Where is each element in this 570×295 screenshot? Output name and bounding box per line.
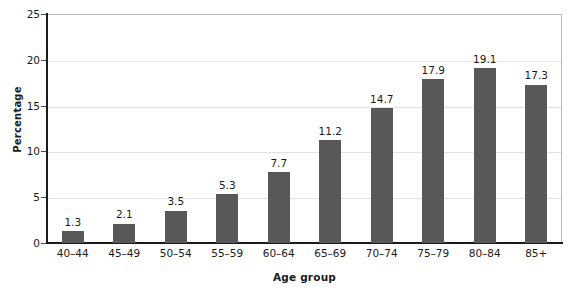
y-tick-label: 10 (6, 146, 40, 157)
x-tick-label: 40–44 (47, 247, 99, 259)
x-tick-label: 80–84 (459, 247, 511, 259)
bar[interactable] (319, 140, 341, 243)
bar[interactable] (474, 68, 496, 243)
bar[interactable] (525, 85, 547, 243)
bar-group[interactable]: 11.2 (305, 14, 357, 243)
x-tick-label: 85+ (511, 247, 563, 259)
bar-value-label: 2.1 (116, 209, 133, 220)
bar-group[interactable]: 5.3 (202, 14, 254, 243)
bar-value-label: 17.3 (525, 70, 548, 81)
bar[interactable] (422, 79, 444, 243)
bar-group[interactable]: 2.1 (99, 14, 151, 243)
x-axis-ticks: 40–4445–4950–5455–5960–6465–6970–7475–79… (47, 247, 562, 265)
x-tick-label: 75–79 (408, 247, 460, 259)
x-tick-label: 70–74 (356, 247, 408, 259)
bar[interactable] (113, 224, 135, 243)
bar-group[interactable]: 3.5 (150, 14, 202, 243)
bar-value-label: 3.5 (167, 196, 184, 207)
bar-value-label: 7.7 (270, 158, 287, 169)
bar-group[interactable]: 7.7 (253, 14, 305, 243)
x-tick-label: 55–59 (202, 247, 254, 259)
bar[interactable] (371, 108, 393, 243)
bar-group[interactable]: 17.9 (408, 14, 460, 243)
y-tick-label: 25 (6, 9, 40, 20)
bar[interactable] (268, 172, 290, 243)
bar-value-label: 11.2 (319, 126, 342, 137)
bar-value-label: 17.9 (422, 65, 445, 76)
y-tick-label: 0 (6, 238, 40, 249)
y-tick-label: 5 (6, 192, 40, 203)
bars-layer: 1.32.13.55.37.711.214.717.919.117.3 (47, 14, 562, 243)
x-tick-label: 60–64 (253, 247, 305, 259)
bar[interactable] (216, 194, 238, 243)
bar-group[interactable]: 14.7 (356, 14, 408, 243)
x-tick-label: 45–49 (99, 247, 151, 259)
x-tick-label: 65–69 (305, 247, 357, 259)
x-tick-label: 50–54 (150, 247, 202, 259)
bar-chart: Percentage 0510152025 1.32.13.55.37.711.… (0, 0, 570, 295)
y-tick-label: 15 (6, 101, 40, 112)
bar-value-label: 5.3 (219, 180, 236, 191)
bar-value-label: 14.7 (370, 94, 393, 105)
bar-value-label: 19.1 (473, 54, 496, 65)
bar[interactable] (165, 211, 187, 243)
y-axis-ticks: 0510152025 (0, 0, 40, 295)
bar-group[interactable]: 19.1 (459, 14, 511, 243)
bar-value-label: 1.3 (64, 217, 81, 228)
y-tick-label: 20 (6, 55, 40, 66)
x-axis-title: Age group (47, 271, 562, 283)
bar[interactable] (62, 231, 84, 243)
bar-group[interactable]: 1.3 (47, 14, 99, 243)
bar-group[interactable]: 17.3 (511, 14, 563, 243)
